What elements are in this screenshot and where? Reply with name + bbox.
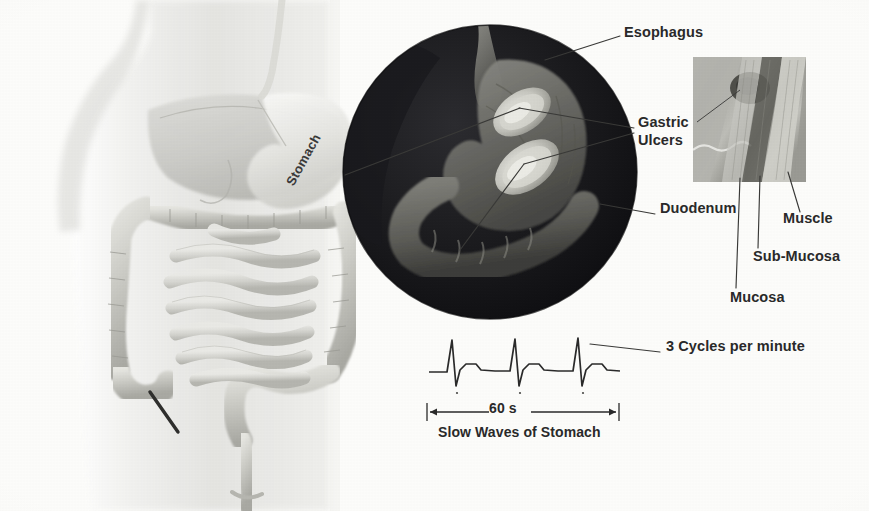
label-duration: 60 s (489, 400, 517, 417)
leader-cycles (590, 344, 660, 352)
spike-markers (456, 392, 584, 394)
label-gastric-ulcers: Gastric Ulcers (638, 114, 689, 149)
caption-slow-waves: Slow Waves of Stomach (438, 424, 601, 441)
leader-submucosa (758, 176, 760, 248)
histology-inset (693, 57, 806, 182)
body-illustration (58, 0, 353, 511)
duration-arrow (427, 403, 619, 421)
figure-canvas: Esophagus Gastric Ulcers Duodenum Muscle… (0, 0, 869, 511)
leader-mucosa (736, 178, 740, 288)
slow-wave-panel (427, 338, 620, 421)
magnified-circle-inset (343, 24, 637, 319)
figure-artwork (0, 0, 869, 511)
label-duodenum: Duodenum (660, 200, 737, 218)
label-cycles-per-minute: 3 Cycles per minute (666, 338, 805, 356)
torso-right-edge (330, 0, 340, 511)
label-sub-mucosa: Sub-Mucosa (753, 248, 840, 266)
label-muscle: Muscle (783, 210, 833, 228)
label-esophagus: Esophagus (624, 24, 703, 42)
slow-wave-trace (429, 338, 620, 386)
label-mucosa: Mucosa (730, 289, 785, 307)
